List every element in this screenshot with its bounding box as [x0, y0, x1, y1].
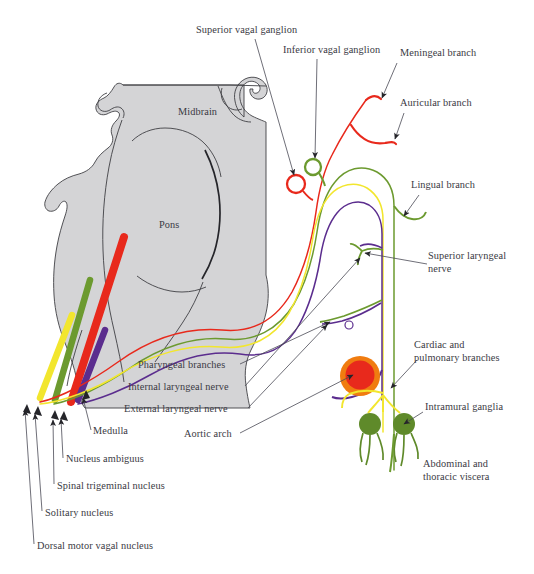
callout-label-line: Intramural ganglia — [425, 401, 503, 412]
leader-line-dorsal-motor-vagal-nucleus — [25, 410, 34, 544]
callout-label-line: pulmonary branches — [414, 352, 500, 363]
callout-label-line: Solitary nucleus — [45, 507, 113, 518]
leader-line-superior-laryngeal-nerve — [365, 253, 427, 264]
callout-label-line: Cardiac and — [414, 339, 465, 350]
cardiac-branch-yellow-left-hook — [342, 394, 349, 408]
laryngeal-nerves — [320, 244, 383, 329]
leader-line-lingual-branch — [404, 195, 419, 216]
callout-label-meningeal-branch: Meningeal branch — [400, 47, 477, 58]
intramural-ganglion-left-processes — [360, 433, 383, 465]
intramural-ganglion-left — [359, 413, 381, 435]
callout-label-spinal-trigeminal-nucleus: Spinal trigeminal nucleus — [57, 480, 165, 491]
callout-label-line: thoracic viscera — [423, 471, 490, 482]
callout-label-aortic-arch: Aortic arch — [184, 428, 232, 439]
internal-laryngeal-nerve-purple — [360, 244, 382, 248]
callout-label-nucleus-ambiguus: Nucleus ambiguus — [66, 453, 144, 464]
superior-vagal-ganglion-circle — [287, 175, 305, 193]
callout-label-line: Dorsal motor vagal nucleus — [37, 540, 153, 551]
callout-label-dorsal-motor-vagal-nucleus: Dorsal motor vagal nucleus — [37, 540, 153, 551]
callout-label-intramural-ganglia: Intramural ganglia — [425, 401, 503, 412]
callout-label-cardiac-and-pulmonary-branches: Cardiac andpulmonary branches — [414, 339, 500, 363]
callout-label-line: Spinal trigeminal nucleus — [57, 480, 165, 491]
leader-line-spinal-trigeminal-nucleus — [53, 420, 54, 484]
leader-line-nucleus-ambiguus — [61, 419, 63, 458]
callout-label-line: Nucleus ambiguus — [66, 453, 144, 464]
callout-label-line: Superior laryngeal — [428, 250, 506, 261]
leader-line-external-laryngeal-nerve — [248, 325, 327, 408]
callout-label-line: Aortic arch — [184, 428, 232, 439]
callout-label-medulla: Medulla — [93, 425, 128, 436]
superior-ganglion-stalk — [303, 191, 313, 200]
leader-line-inferior-vagal-ganglion — [315, 59, 317, 158]
callout-label-external-laryngeal-nerve: External laryngeal nerve — [124, 403, 228, 414]
callout-label-line: Medulla — [93, 425, 128, 436]
external-laryngeal-loop — [345, 321, 353, 329]
callout-label-line: Abdominal and — [423, 458, 489, 469]
callout-label-line: Meningeal branch — [400, 47, 477, 58]
callout-label-lingual-branch: Lingual branch — [411, 179, 476, 190]
callout-label-pharyngeal-branches: Pharyngeal branches — [138, 359, 225, 370]
callout-label-inferior-vagal-ganglion: Inferior vagal ganglion — [283, 44, 380, 55]
callout-label-line: External laryngeal nerve — [124, 403, 228, 414]
meningeal-branch-tract — [366, 96, 381, 100]
cardiac-pulmonary-branches-group — [342, 391, 418, 472]
callout-label-auricular-branch: Auricular branch — [400, 97, 472, 108]
callout-label-abdominal-and-thoracic-viscera: Abdominal andthoracic viscera — [423, 458, 490, 482]
brain-label-midbrain: Midbrain — [178, 106, 217, 117]
callout-label-internal-laryngeal-nerve: Internal laryngeal nerve — [128, 381, 229, 392]
callout-label-superior-vagal-ganglion: Superior vagal ganglion — [196, 24, 297, 35]
leader-line-meningeal-branch — [382, 63, 397, 98]
vagus-nerve-figure: Superior vagal ganglionInferior vagal ga… — [0, 0, 534, 574]
vagus-nerve-diagram: Superior vagal ganglionInferior vagal ga… — [0, 0, 534, 574]
callout-label-line: Auricular branch — [400, 97, 472, 108]
callout-label-line: Superior vagal ganglion — [196, 24, 297, 35]
leader-line-aortic-arch — [240, 375, 353, 433]
leader-line-cardiac-and-pulmonary-branches — [391, 360, 417, 388]
callout-label-line: Lingual branch — [411, 179, 476, 190]
auricular-branch-tract — [351, 125, 396, 144]
callout-label-line: Pharyngeal branches — [138, 359, 225, 370]
intramural-ganglion-right-processes — [394, 433, 418, 466]
callout-label-superior-laryngeal-nerve: Superior laryngealnerve — [428, 250, 506, 274]
inferior-vagal-ganglion-circle — [305, 159, 321, 175]
cardiac-pulmonary-branch-yellow — [368, 395, 400, 413]
callout-label-line: nerve — [428, 263, 452, 274]
aortic-arch-group — [340, 356, 380, 396]
brain-label-pons: Pons — [159, 219, 179, 230]
callout-label-line: Internal laryngeal nerve — [128, 381, 229, 392]
aortic-arch-core — [346, 361, 375, 390]
leader-line-auricular-branch — [395, 113, 404, 139]
callout-label-line: Inferior vagal ganglion — [283, 44, 380, 55]
leader-line-solitary-nucleus — [35, 414, 42, 511]
callout-label-solitary-nucleus: Solitary nucleus — [45, 507, 113, 518]
